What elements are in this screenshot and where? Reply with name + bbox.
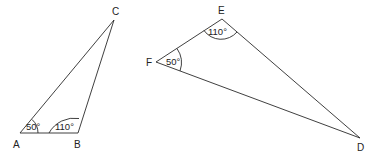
vertex-label-d: D	[357, 142, 364, 153]
triangle-abc-edges	[20, 20, 114, 133]
triangle-def-edges	[156, 19, 360, 138]
vertex-label-a: A	[13, 139, 20, 150]
vertex-label-e: E	[218, 5, 225, 16]
vertex-label-b: B	[74, 139, 81, 150]
similar-triangles-diagram: 50° 110° A B C 110° 50° E F D	[0, 0, 375, 154]
triangle-def: 110° 50° E F D	[146, 5, 364, 153]
triangle-abc: 50° 110° A B C	[13, 6, 119, 150]
angle-label-f: 50°	[166, 56, 181, 67]
angle-label-e: 110°	[208, 26, 227, 37]
vertex-label-f: F	[146, 57, 152, 68]
angle-label-a: 50°	[26, 121, 41, 132]
angle-label-b: 110°	[55, 121, 74, 132]
vertex-label-c: C	[112, 6, 119, 17]
